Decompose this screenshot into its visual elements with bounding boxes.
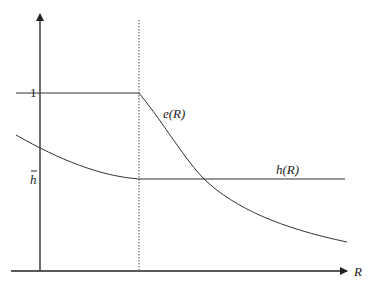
tick-label-hbar: h [30,172,37,187]
tick-label-one: 1 [30,85,37,100]
chart: 1 h e(R) h(R) R [0,0,371,283]
x-axis-label: R [353,264,362,279]
curve-label-h: h(R) [276,162,299,177]
curve-label-e: e(R) [163,106,185,121]
